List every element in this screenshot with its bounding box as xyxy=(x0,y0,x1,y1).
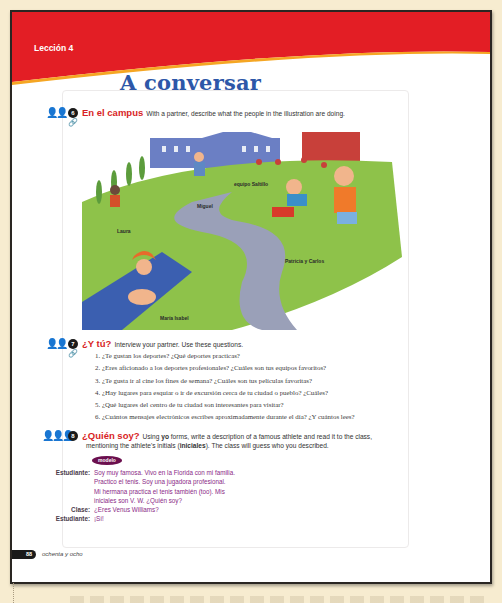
activity-8-description-line2: mentioning the athlete's initials (inici… xyxy=(86,441,329,450)
question-item: 6. ¿Cuántos mensajes electrónicos escrib… xyxy=(95,411,355,423)
cutoff-text-strip xyxy=(70,596,490,603)
activity-8-title: ¿Quién soy? xyxy=(82,430,140,441)
activity-number: 7 xyxy=(68,339,78,349)
activity-title: ¿Y tú?Interview your partner. Use these … xyxy=(82,338,243,349)
question-item: 4. ¿Hay lugares para esquiar o ir de exc… xyxy=(95,387,355,399)
margin-dotted-line xyxy=(13,583,14,603)
modelo-badge: modelo xyxy=(92,456,122,465)
dialog-line: Estudiante:¡Sí! xyxy=(52,514,235,523)
question-item: 1. ¿Te gustan los deportes? ¿Qué deporte… xyxy=(95,350,355,362)
question-item: 2. ¿Eres aficionado a los deportes profe… xyxy=(95,362,355,374)
question-item: 3. ¿Te gusta ir al cine los fines de sem… xyxy=(95,375,355,387)
model-dialog: Estudiante:Soy muy famosa. Vivo en la Fl… xyxy=(52,468,235,524)
pair-icon: 👤👤 xyxy=(46,107,66,118)
activity-7-title: ¿Y tú? xyxy=(82,338,111,349)
dialog-line: iniciales son V. W. ¿Quién soy? xyxy=(52,496,235,505)
textbook-page: Lección 4 A conversar 👤👤 6 En el campusW… xyxy=(10,10,492,584)
activity-title: ¿Quién soy?Using yo forms, write a descr… xyxy=(82,430,372,441)
label-miguel: Miguel xyxy=(197,203,213,209)
label-equipo-saltillo: equipo Saltillo xyxy=(234,181,268,187)
label-maria-isabel: María Isabel xyxy=(160,315,189,321)
activity-7-description: Interview your partner. Use these questi… xyxy=(114,341,243,348)
activity-number: 6 xyxy=(68,108,78,118)
campus-illustration: equipo Saltillo Miguel Laura Patricia y … xyxy=(82,132,402,330)
page-number-words: ochenta y ocho xyxy=(42,550,83,559)
label-laura: Laura xyxy=(117,228,131,234)
page-number-badge: 88 xyxy=(12,550,36,559)
activity-6-title: En el campus xyxy=(82,107,143,118)
link-icon[interactable]: 🔗 xyxy=(68,349,78,358)
question-list: 1. ¿Te gustan los deportes? ¿Qué deporte… xyxy=(95,350,355,424)
label-patricia-carlos: Patricia y Carlos xyxy=(285,258,324,264)
lesson-label: Lección 4 xyxy=(34,43,73,53)
pair-icon: 👤👤 xyxy=(46,338,66,349)
dialog-line: Estudiante:Soy muy famosa. Vivo en la Fl… xyxy=(52,468,235,477)
link-icon[interactable]: 🔗 xyxy=(68,118,78,127)
dialog-line: Clase:¿Eres Venus Williams? xyxy=(52,505,235,514)
activity-number: 8 xyxy=(68,431,78,441)
activity-8-description: Using yo forms, write a description of a… xyxy=(143,433,372,440)
activity-6-description: With a partner, describe what the people… xyxy=(146,110,345,117)
question-item: 5. ¿Qué lugares del centro de tu ciudad … xyxy=(95,399,355,411)
activity-title: En el campusWith a partner, describe wha… xyxy=(82,107,345,118)
dialog-line: Mi hermana practica el tenis también (to… xyxy=(52,487,235,496)
dialog-line: Practico el tenis. Soy una jugadora prof… xyxy=(52,477,235,486)
